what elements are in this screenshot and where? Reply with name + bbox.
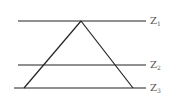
- diagram-canvas: [0, 0, 171, 99]
- label-z3: Z3: [150, 83, 161, 96]
- label-z1: Z1: [150, 16, 161, 29]
- triangle-left-edge: [24, 21, 81, 88]
- triangle-right-edge: [81, 21, 133, 88]
- label-z2: Z2: [150, 60, 161, 73]
